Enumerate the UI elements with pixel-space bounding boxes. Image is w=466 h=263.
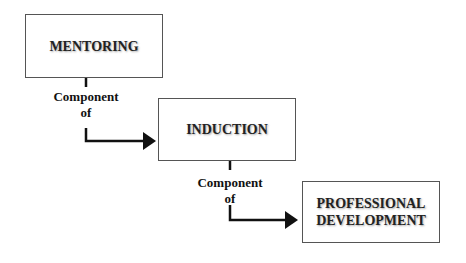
edge-1-label: Component of (41, 89, 131, 121)
node-induction-label: INDUCTION (186, 121, 268, 138)
label-line-1: PROFESSIONAL (316, 195, 426, 212)
edge-2-label: Component of (185, 175, 275, 207)
label-line-2: DEVELOPMENT (316, 212, 426, 229)
node-mentoring: MENTORING (25, 14, 163, 78)
edge-2-label-line-2: of (185, 191, 275, 207)
node-mentoring-label: MENTORING (49, 38, 138, 55)
edge-2-arrow (230, 205, 287, 220)
edge-2-label-line-1: Component (185, 175, 275, 191)
edge-1-label-line-1: Component (41, 89, 131, 105)
edge-1-label-line-2: of (41, 105, 131, 121)
edge-2-arrowhead-icon (285, 211, 298, 229)
node-induction: INDUCTION (158, 98, 296, 161)
node-professional-development: PROFESSIONAL DEVELOPMENT (302, 181, 440, 243)
node-professional-development-label: PROFESSIONAL DEVELOPMENT (316, 195, 426, 229)
edge-1-arrowhead-icon (143, 132, 156, 150)
edge-1-arrow (86, 128, 145, 141)
